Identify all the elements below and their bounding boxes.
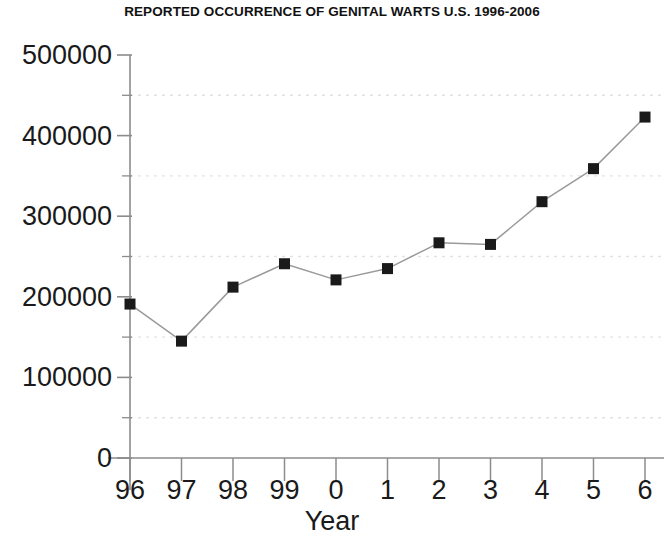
- y-tick-label-300000: 300000: [22, 201, 112, 231]
- data-point-97: [176, 336, 187, 347]
- y-tick-label-500000: 500000: [22, 40, 112, 70]
- y-axis-tick-labels: 0100000200000300000400000500000: [22, 40, 112, 473]
- series-line: [130, 117, 645, 341]
- data-point-5: [588, 163, 599, 174]
- x-tick-label-1: 1: [380, 475, 395, 505]
- data-point-98: [228, 282, 239, 293]
- data-point-6: [640, 112, 651, 123]
- x-tick-label-99: 99: [269, 475, 299, 505]
- data-point-3: [485, 239, 496, 250]
- y-tick-label-200000: 200000: [22, 282, 112, 312]
- gridlines-group: [130, 95, 662, 417]
- x-tick-label-4: 4: [534, 475, 549, 505]
- x-tick-label-5: 5: [586, 475, 601, 505]
- data-series-markers: [125, 112, 651, 347]
- x-tick-label-96: 96: [115, 475, 145, 505]
- x-axis-tick-labels: 969798990123456: [115, 475, 653, 505]
- x-tick-label-0: 0: [328, 475, 343, 505]
- x-tick-label-97: 97: [166, 475, 196, 505]
- x-tick-label-3: 3: [483, 475, 498, 505]
- data-point-96: [125, 299, 136, 310]
- data-point-99: [279, 258, 290, 269]
- data-point-0: [331, 274, 342, 285]
- y-tick-label-400000: 400000: [22, 121, 112, 151]
- x-tick-label-98: 98: [218, 475, 248, 505]
- y-tick-label-0: 0: [97, 443, 112, 473]
- line-chart-plot: 0100000200000300000400000500000 96979899…: [0, 0, 664, 552]
- y-tick-label-100000: 100000: [22, 362, 112, 392]
- data-point-1: [382, 263, 393, 274]
- data-point-4: [537, 196, 548, 207]
- x-axis-title: Year: [0, 506, 664, 537]
- data-point-2: [434, 237, 445, 248]
- data-series-line: [130, 117, 645, 341]
- chart-container: REPORTED OCCURRENCE OF GENITAL WARTS U.S…: [0, 0, 664, 552]
- x-tick-label-6: 6: [637, 475, 652, 505]
- x-tick-label-2: 2: [431, 475, 446, 505]
